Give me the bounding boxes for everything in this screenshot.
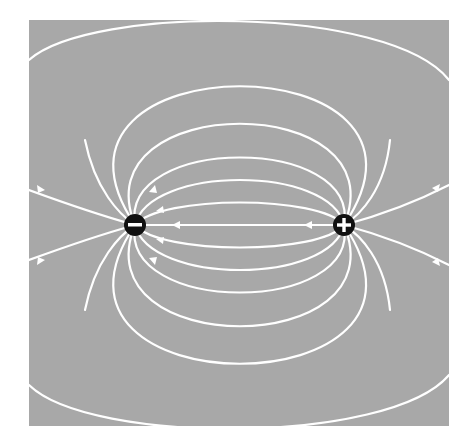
minus-icon (128, 223, 142, 227)
dipole-field-diagram (0, 0, 473, 437)
plus-icon-vertical (342, 218, 345, 232)
field-panel-background (29, 20, 449, 426)
negative-charge (124, 214, 146, 236)
positive-charge (333, 214, 355, 236)
